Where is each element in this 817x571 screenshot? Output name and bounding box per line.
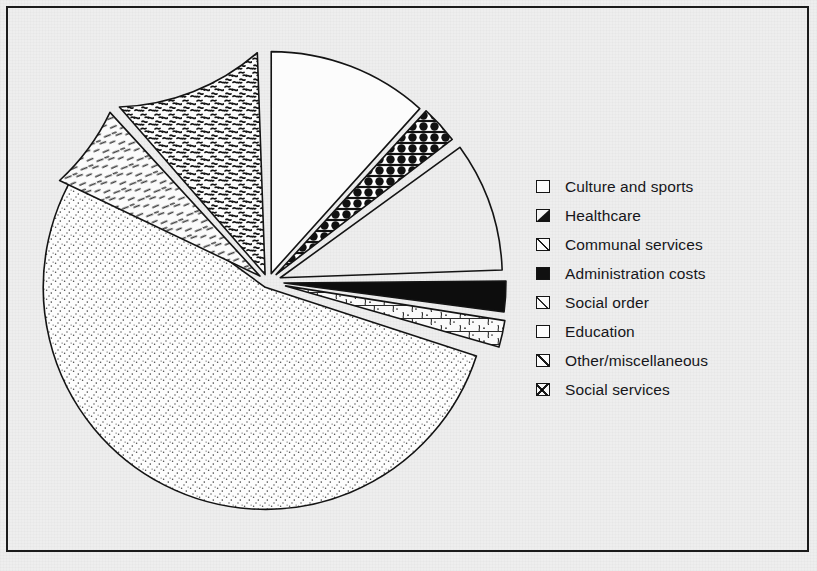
legend-swatch-solid-icon [536, 267, 550, 280]
legend-swatch-cobble-icon [536, 296, 550, 309]
legend-item-label: Healthcare [565, 208, 641, 224]
chart-legend: Culture and sportsHealthcareCommunal ser… [536, 172, 786, 404]
legend-swatch-dots-on-black-icon [536, 209, 550, 222]
legend-swatch-dashes-icon [536, 383, 550, 396]
legend-item-label: Social services [565, 382, 670, 398]
legend-item[interactable]: Administration costs [536, 259, 786, 288]
legend-item[interactable]: Social services [536, 375, 786, 404]
legend-item-label: Education [565, 324, 635, 340]
legend-swatch-squiggle-icon [536, 354, 550, 367]
legend-item-label: Culture and sports [565, 179, 693, 195]
legend-item[interactable]: Other/miscellaneous [536, 346, 786, 375]
legend-item[interactable]: Education [536, 317, 786, 346]
legend-item-label: Other/miscellaneous [565, 353, 708, 369]
legend-item[interactable]: Social order [536, 288, 786, 317]
legend-swatch-plain-icon [536, 180, 550, 193]
legend-swatch-diagonal-hatch-icon [536, 238, 550, 251]
legend-item[interactable]: Culture and sports [536, 172, 786, 201]
legend-item-label: Administration costs [565, 266, 706, 282]
pie-slice-group [43, 52, 506, 510]
legend-item[interactable]: Healthcare [536, 201, 786, 230]
legend-item[interactable]: Communal services [536, 230, 786, 259]
legend-item-label: Social order [565, 295, 649, 311]
legend-item-label: Communal services [565, 237, 703, 253]
legend-swatch-stipple-icon [536, 325, 550, 338]
